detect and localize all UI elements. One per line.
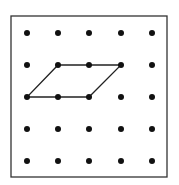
peg-dot bbox=[149, 158, 155, 164]
peg-dot bbox=[118, 126, 124, 132]
peg-dot bbox=[24, 62, 30, 68]
peg-dot bbox=[24, 94, 30, 100]
peg-dot bbox=[86, 126, 92, 132]
peg-dot bbox=[24, 158, 30, 164]
peg-dot bbox=[55, 94, 61, 100]
peg-dot bbox=[86, 30, 92, 36]
peg-dot bbox=[55, 30, 61, 36]
peg-dot bbox=[86, 94, 92, 100]
peg-dot bbox=[55, 62, 61, 68]
peg-dot bbox=[149, 126, 155, 132]
peg-dot bbox=[55, 126, 61, 132]
peg-dot bbox=[118, 158, 124, 164]
peg-dot bbox=[55, 158, 61, 164]
peg-dot bbox=[118, 30, 124, 36]
peg-dot bbox=[118, 62, 124, 68]
peg-dot bbox=[24, 30, 30, 36]
peg-dot bbox=[118, 94, 124, 100]
parallelogram-shape bbox=[27, 65, 121, 97]
peg-dot bbox=[149, 62, 155, 68]
peg-dot bbox=[86, 158, 92, 164]
peg-dot bbox=[149, 94, 155, 100]
peg-dot bbox=[24, 126, 30, 132]
peg-dot bbox=[149, 30, 155, 36]
peg-dot bbox=[86, 62, 92, 68]
geoboard-diagram bbox=[0, 0, 179, 185]
